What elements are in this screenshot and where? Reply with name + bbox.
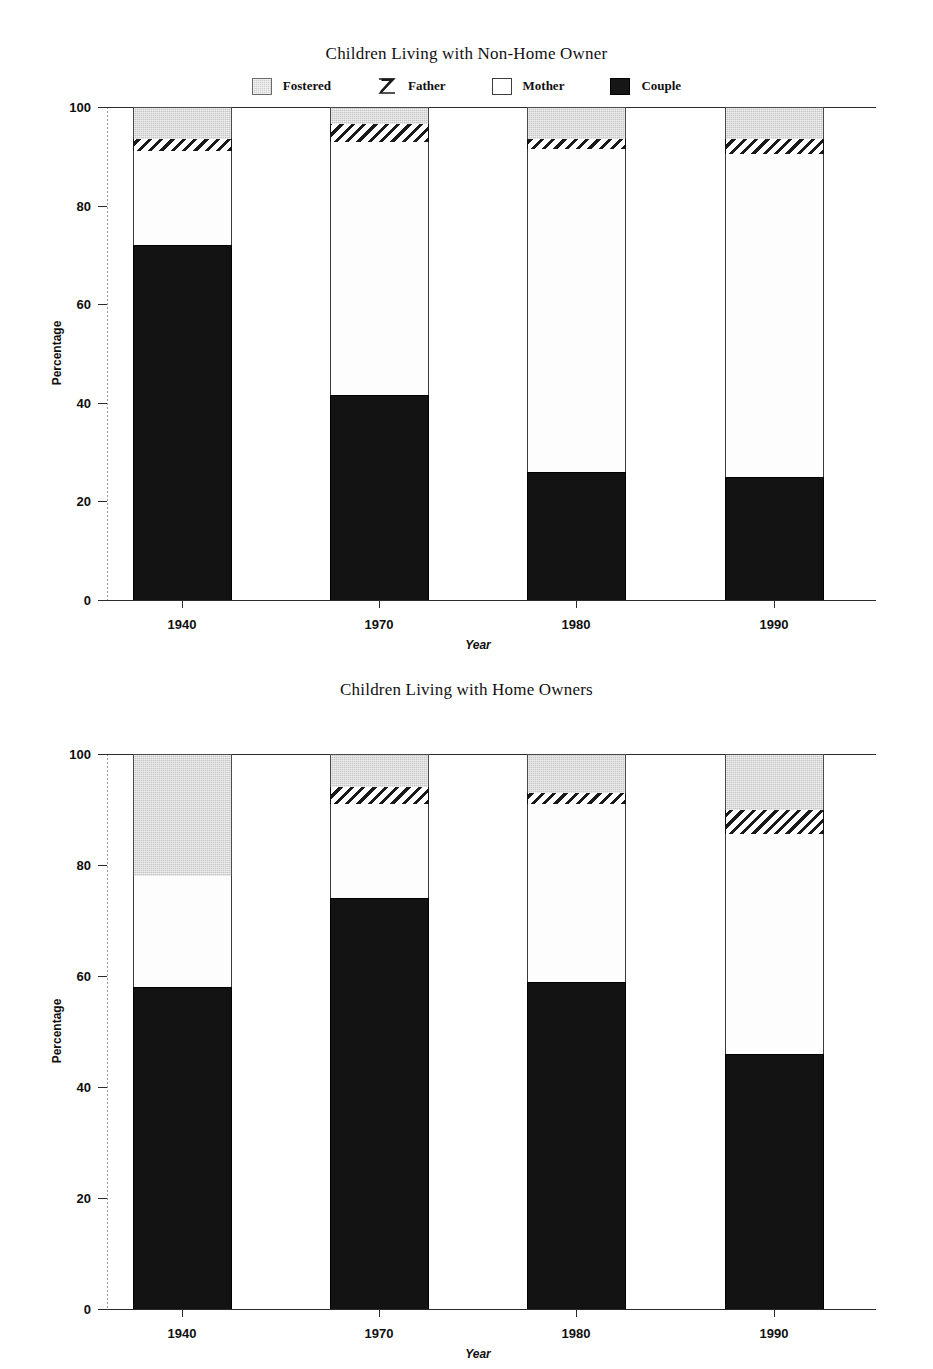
bar-1940	[133, 107, 232, 600]
plot-area-home-owners: 020406080100Percentage1940197019801990Ye…	[0, 700, 933, 1300]
x-axis-tick	[379, 1309, 380, 1317]
y-axis-tick	[98, 304, 107, 305]
mother-swatch-icon	[492, 78, 512, 95]
bar-segment-father	[133, 139, 232, 151]
page-title-non-home-owner: Children Living with Non-Home Owner	[0, 44, 933, 64]
y-axis-tick-label: 80	[45, 198, 91, 213]
legend-label-father: Father	[408, 78, 446, 94]
y-axis-tick	[98, 754, 107, 755]
x-axis-tick	[379, 600, 380, 608]
legend-item-mother: Mother	[492, 78, 565, 95]
x-axis-tick	[774, 1309, 775, 1317]
bar-segment-couple	[527, 982, 626, 1309]
bar-segment-mother	[725, 154, 824, 477]
y-axis-line	[107, 107, 108, 600]
bar-1980	[527, 107, 626, 600]
y-axis-tick-label: 80	[45, 858, 91, 873]
x-axis-tick	[182, 600, 183, 608]
legend-item-father: Father	[377, 77, 446, 95]
x-axis-tick-label: 1940	[168, 617, 197, 632]
legend: Fostered Father Mother Couple	[0, 77, 933, 95]
y-axis-tick	[98, 600, 107, 601]
bar-segment-mother	[133, 151, 232, 245]
legend-item-couple: Couple	[610, 78, 681, 95]
y-axis-tick-label: 0	[45, 1302, 91, 1317]
bar-segment-father	[330, 124, 429, 141]
bar-segment-couple	[527, 472, 626, 600]
page-title-home-owners: Children Living with Home Owners	[0, 680, 933, 700]
bar-segment-mother	[725, 834, 824, 1053]
y-axis-tick-label: 100	[45, 100, 91, 115]
bar-1990	[725, 754, 824, 1309]
legend-label-fostered: Fostered	[283, 78, 331, 94]
y-axis-tick-label: 20	[45, 1191, 91, 1206]
x-axis-tick	[182, 1309, 183, 1317]
chart-non-home-owner: Children Living with Non-Home Owner Fost…	[0, 0, 933, 700]
y-axis-tick-label: 100	[45, 747, 91, 762]
y-axis-tick	[98, 1198, 107, 1199]
father-hatch-swatch-icon	[377, 77, 397, 95]
bar-segment-father	[527, 139, 626, 149]
bar-1970	[330, 754, 429, 1309]
x-axis-tick	[774, 600, 775, 608]
bar-segment-fostered	[527, 754, 626, 793]
y-axis-tick	[98, 107, 107, 108]
y-axis-tick	[98, 206, 107, 207]
y-axis-tick	[98, 1087, 107, 1088]
bar-1970	[330, 107, 429, 600]
chart-home-owners: Children Living with Home Owners 0204060…	[0, 672, 933, 1369]
bar-segment-fostered	[133, 107, 232, 139]
bar-segment-fostered	[725, 754, 824, 810]
bar-segment-father	[725, 810, 824, 835]
bar-segment-couple	[330, 898, 429, 1309]
x-axis-title: Year	[465, 1347, 491, 1361]
plot-area-non-home-owner: 020406080100Percentage1940197019801990Ye…	[0, 95, 933, 655]
bar-segment-father	[527, 793, 626, 804]
x-axis-line	[107, 600, 876, 601]
bar-1980	[527, 754, 626, 1309]
x-axis-tick-label: 1980	[562, 617, 591, 632]
y-axis-title: Percentage	[50, 298, 64, 408]
bar-segment-couple	[330, 395, 429, 600]
x-axis-tick-label: 1970	[365, 617, 394, 632]
bar-segment-father	[725, 139, 824, 154]
legend-item-fostered: Fostered	[252, 78, 331, 95]
x-axis-tick-label: 1980	[562, 1326, 591, 1341]
x-axis-line	[107, 1309, 876, 1310]
bar-segment-mother	[527, 149, 626, 472]
y-axis-line	[107, 754, 108, 1309]
bar-segment-father	[330, 787, 429, 804]
y-axis-tick	[98, 403, 107, 404]
legend-label-couple: Couple	[641, 78, 681, 94]
bar-1990	[725, 107, 824, 600]
bar-segment-fostered	[330, 754, 429, 787]
x-axis-tick	[576, 600, 577, 608]
x-axis-tick-label: 1970	[365, 1326, 394, 1341]
bar-segment-couple	[133, 245, 232, 600]
x-axis-tick-label: 1990	[760, 617, 789, 632]
bar-segment-fostered	[725, 107, 824, 139]
bar-segment-mother	[133, 876, 232, 987]
fostered-swatch-icon	[252, 78, 272, 95]
bar-segment-fostered	[330, 107, 429, 124]
x-axis-tick	[576, 1309, 577, 1317]
couple-swatch-icon	[610, 78, 630, 95]
bar-segment-couple	[725, 1054, 824, 1309]
bar-1940	[133, 754, 232, 1309]
y-axis-tick-label: 20	[45, 494, 91, 509]
legend-label-mother: Mother	[523, 78, 565, 94]
y-axis-title: Percentage	[50, 976, 64, 1086]
bar-segment-mother	[527, 804, 626, 982]
y-axis-tick	[98, 501, 107, 502]
bar-segment-fostered	[133, 754, 232, 876]
x-axis-tick-label: 1940	[168, 1326, 197, 1341]
y-axis-tick-label: 0	[45, 593, 91, 608]
bar-segment-couple	[133, 987, 232, 1309]
y-axis-tick	[98, 865, 107, 866]
x-axis-title: Year	[465, 638, 491, 652]
bar-segment-couple	[725, 477, 824, 600]
y-axis-tick	[98, 1309, 107, 1310]
bar-segment-mother	[330, 142, 429, 396]
y-axis-tick	[98, 976, 107, 977]
bar-segment-mother	[330, 804, 429, 898]
